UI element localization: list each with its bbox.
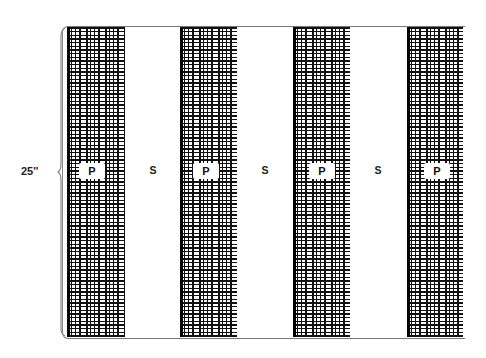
solid-stripe-2: [237, 27, 293, 337]
solid-stripe-1: [125, 27, 180, 337]
plaid-stripe-1: [67, 27, 125, 337]
plaid-label-2: P: [193, 163, 219, 179]
plaid-stripe-2: [180, 27, 237, 337]
plaid-stripe-3: [293, 27, 350, 337]
solid-label-2: S: [255, 164, 275, 176]
solid-stripe-3: [350, 27, 407, 337]
plaid-label-3: P: [309, 163, 335, 179]
plaid-stripe-4: [407, 27, 463, 337]
solid-label-3: S: [368, 164, 388, 176]
height-dimension-label: 25'': [21, 165, 38, 177]
solid-label-1: S: [143, 164, 163, 176]
plaid-label-1: P: [79, 163, 105, 179]
dimension-brace-icon: [57, 28, 67, 336]
plaid-label-4: P: [424, 163, 450, 179]
